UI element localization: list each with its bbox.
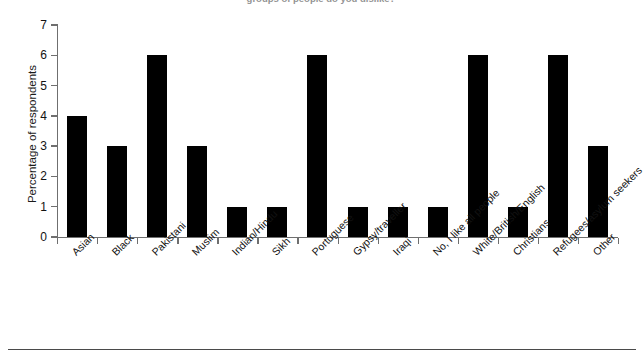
y-tick-label: 5: [25, 80, 47, 92]
x-axis-label: Iraqi: [391, 236, 413, 258]
y-tick-mark: [51, 145, 58, 146]
y-tick-mark: [51, 206, 58, 207]
x-tick-mark: [418, 238, 419, 244]
bar: [428, 207, 448, 237]
x-tick-mark: [458, 238, 459, 244]
bar-chart: Percentage of respondents 01234567 Asian…: [0, 0, 642, 340]
x-tick-mark: [378, 238, 379, 244]
bar: [307, 55, 327, 237]
bar: [107, 146, 127, 237]
x-tick-mark: [217, 238, 218, 244]
x-tick-mark: [177, 238, 178, 244]
y-tick-mark: [51, 85, 58, 86]
bar: [67, 116, 87, 237]
x-tick-mark: [498, 238, 499, 244]
y-tick-label: 2: [25, 170, 47, 182]
x-tick-mark: [297, 238, 298, 244]
x-tick-mark: [57, 238, 58, 244]
y-tick-label: 0: [25, 231, 47, 243]
x-tick-mark: [618, 238, 619, 244]
x-tick-mark: [538, 238, 539, 244]
y-tick-mark: [51, 115, 58, 116]
y-tick-label: 6: [25, 49, 47, 61]
bar: [187, 146, 207, 237]
y-tick-label: 7: [25, 19, 47, 31]
footer-caption: [10, 353, 630, 361]
bar: [548, 55, 568, 237]
y-tick-label: 3: [25, 140, 47, 152]
x-axis-label: Sikh: [270, 236, 292, 258]
x-tick-mark: [257, 238, 258, 244]
x-tick-mark: [97, 238, 98, 244]
y-tick-label: 1: [25, 201, 47, 213]
x-tick-mark: [578, 238, 579, 244]
bar: [147, 55, 167, 237]
y-tick-label: 4: [25, 110, 47, 122]
y-tick-mark: [51, 24, 58, 25]
y-tick-mark: [51, 55, 58, 56]
x-tick-mark: [137, 238, 138, 244]
footer-divider: [8, 349, 636, 350]
y-tick-mark: [51, 176, 58, 177]
x-tick-mark: [338, 238, 339, 244]
